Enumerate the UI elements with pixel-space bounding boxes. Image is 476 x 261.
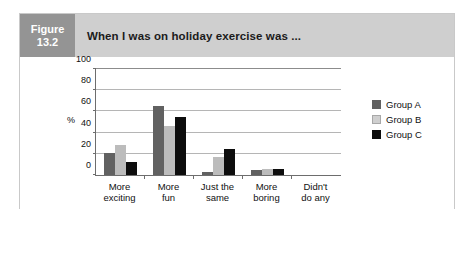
legend-label: Group B	[386, 114, 421, 125]
x-axis-label: Didn'tdo any	[291, 181, 340, 203]
x-axis-label: Moreexciting	[95, 181, 144, 203]
x-axis-label-line: boring	[242, 192, 291, 203]
bar-group-a[interactable]	[153, 106, 164, 175]
x-axis-label: Morefun	[144, 181, 193, 203]
bar-group-b[interactable]	[262, 169, 273, 175]
legend-label: Group A	[386, 99, 421, 110]
legend-item[interactable]: Group A	[372, 99, 422, 110]
y-axis-tick-label: 0	[86, 160, 91, 170]
bar-group-c[interactable]	[224, 149, 235, 176]
plot-axes: 020406080100	[95, 69, 341, 176]
x-axis-tick-mark	[144, 175, 145, 179]
x-axis-label: Just thesame	[193, 181, 242, 203]
bar-group-a[interactable]	[251, 170, 262, 175]
bar-group-b[interactable]	[164, 126, 175, 175]
bar-group-c[interactable]	[175, 117, 186, 175]
bar-group	[96, 69, 145, 175]
bar-group-c[interactable]	[273, 169, 284, 175]
plot-region: 020406080100	[95, 69, 340, 175]
figure-card: Figure 13.2 When I was on holiday exerci…	[19, 13, 455, 209]
x-axis-label-line: More	[95, 181, 144, 192]
bar-group	[243, 69, 292, 175]
x-axis-labels: MoreexcitingMorefunJust thesameMoreborin…	[95, 181, 340, 203]
x-axis-label-line: More	[242, 181, 291, 192]
bar-group-a[interactable]	[104, 153, 115, 175]
y-axis-tick-label: 100	[76, 54, 91, 64]
legend-item[interactable]: Group B	[372, 114, 422, 125]
figure-number-tag: Figure 13.2	[20, 14, 75, 57]
legend-swatch-icon	[372, 115, 381, 124]
figure-title-strip: When I was on holiday exercise was ...	[75, 14, 454, 57]
bar-groups	[96, 69, 341, 175]
x-axis-label-line: Just the	[193, 181, 242, 192]
bar-group-b[interactable]	[213, 157, 224, 175]
y-axis-tick-label: 60	[81, 96, 91, 106]
figure-tag-line-2: 13.2	[37, 36, 58, 49]
x-axis-label-line: exciting	[95, 192, 144, 203]
x-axis-tick-mark	[193, 175, 194, 179]
bar-group	[292, 69, 341, 175]
x-axis-tick-mark	[291, 175, 292, 179]
x-axis-label-line: same	[193, 192, 242, 203]
chart-legend: Group AGroup BGroup C	[372, 99, 422, 140]
bar-group-c[interactable]	[126, 162, 137, 175]
y-axis-tick-label: 40	[81, 118, 91, 128]
bar-group	[145, 69, 194, 175]
x-axis-label-line: More	[144, 181, 193, 192]
y-axis-tick-label: 20	[81, 139, 91, 149]
y-axis-tick-label: 80	[81, 75, 91, 85]
figure-title: When I was on holiday exercise was ...	[87, 30, 301, 42]
x-axis-tick-mark	[242, 175, 243, 179]
bar-group-a[interactable]	[202, 172, 213, 175]
figure-tag-line-1: Figure	[31, 23, 65, 36]
x-axis-label: Moreboring	[242, 181, 291, 203]
legend-item[interactable]: Group C	[372, 129, 422, 140]
bar-group	[194, 69, 243, 175]
legend-swatch-icon	[372, 130, 381, 139]
y-axis-title: %	[67, 115, 75, 125]
legend-swatch-icon	[372, 100, 381, 109]
chart-area: % 020406080100 MoreexcitingMorefunJust t…	[20, 57, 454, 209]
legend-label: Group C	[386, 129, 422, 140]
x-axis-label-line: Didn't	[291, 181, 340, 192]
figure-header: Figure 13.2 When I was on holiday exerci…	[20, 14, 454, 57]
x-axis-label-line: do any	[291, 192, 340, 203]
x-axis-label-line: fun	[144, 192, 193, 203]
bar-group-b[interactable]	[115, 145, 126, 175]
